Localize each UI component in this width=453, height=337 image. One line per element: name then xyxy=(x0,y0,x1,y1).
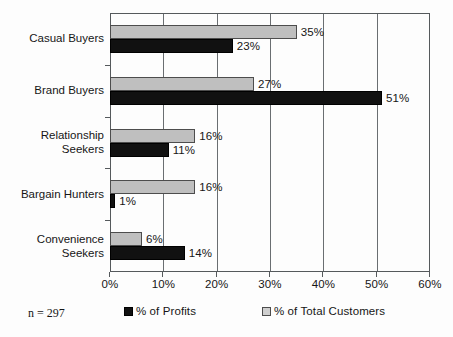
y-axis-category-label: RelationshipSeekers xyxy=(4,129,104,156)
y-axis-category-label: Brand Buyers xyxy=(4,84,104,98)
bar-total-customers xyxy=(110,180,195,194)
x-axis-tick-label: 50% xyxy=(357,278,397,290)
bar-value-label: 35% xyxy=(301,25,324,39)
x-axis-tick-label: 40% xyxy=(303,278,343,290)
x-axis-tick-label: 0% xyxy=(90,278,130,290)
x-axis-tick xyxy=(109,272,110,277)
y-axis-tick xyxy=(105,117,110,118)
legend-item-profits: % of Profits xyxy=(124,305,196,317)
bar-value-label: 6% xyxy=(146,232,163,246)
y-axis-category-label-line: Brand Buyers xyxy=(4,84,104,98)
y-axis-category-label-line: Bargain Hunters xyxy=(4,188,104,202)
bar-chart: Casual BuyersBrand BuyersRelationshipSee… xyxy=(0,0,453,337)
y-axis-category-label: ConvenienceSeekers xyxy=(4,233,104,260)
y-axis-category-label-line: Seekers xyxy=(4,247,104,261)
bar-value-label: 14% xyxy=(189,246,212,260)
legend-item-total-customers: % of Total Customers xyxy=(262,305,385,317)
y-axis-category-label-line: Casual Buyers xyxy=(4,32,104,46)
y-axis-tick xyxy=(105,168,110,169)
x-axis-tick-label: 60% xyxy=(410,278,450,290)
y-axis-category-label-line: Relationship xyxy=(4,129,104,143)
y-axis-category-label: Bargain Hunters xyxy=(4,188,104,202)
bar-total-customers xyxy=(110,232,142,246)
bar-total-customers xyxy=(110,129,195,143)
bar-profits xyxy=(110,143,169,157)
gray-square-swatch-icon xyxy=(262,307,271,316)
y-axis-category-label-line: Convenience xyxy=(4,233,104,247)
sample-size-annotation: n = 297 xyxy=(28,306,65,321)
gridline xyxy=(270,14,271,271)
y-axis-category-label-line: Seekers xyxy=(4,143,104,157)
bar-profits xyxy=(110,194,115,208)
bar-value-label: 51% xyxy=(386,91,409,105)
x-axis-tick-label: 20% xyxy=(197,278,237,290)
x-axis-tick xyxy=(322,272,323,277)
x-axis-tick xyxy=(162,272,163,277)
bar-value-label: 16% xyxy=(199,180,222,194)
x-axis-tick xyxy=(216,272,217,277)
bar-total-customers xyxy=(110,25,297,39)
y-axis-category-label: Casual Buyers xyxy=(4,32,104,46)
x-axis-tick xyxy=(376,272,377,277)
black-square-swatch-icon xyxy=(124,307,133,316)
x-axis-tick-label: 30% xyxy=(250,278,290,290)
gridline xyxy=(377,14,378,271)
x-axis-tick-label: 10% xyxy=(143,278,183,290)
gridline xyxy=(323,14,324,271)
y-axis-tick xyxy=(105,220,110,221)
bar-value-label: 11% xyxy=(173,143,195,157)
x-axis-tick xyxy=(429,272,430,277)
bar-profits xyxy=(110,91,382,105)
bar-profits xyxy=(110,246,185,260)
x-axis-tick xyxy=(269,272,270,277)
bar-value-label: 16% xyxy=(199,129,222,143)
bar-value-label: 23% xyxy=(237,39,260,53)
y-axis-tick xyxy=(105,65,110,66)
bar-value-label: 1% xyxy=(119,194,136,208)
bar-profits xyxy=(110,39,233,53)
bar-total-customers xyxy=(110,77,254,91)
bar-value-label: 27% xyxy=(258,77,281,91)
legend-label-total-customers: % of Total Customers xyxy=(274,305,385,317)
legend-label-profits: % of Profits xyxy=(136,305,196,317)
